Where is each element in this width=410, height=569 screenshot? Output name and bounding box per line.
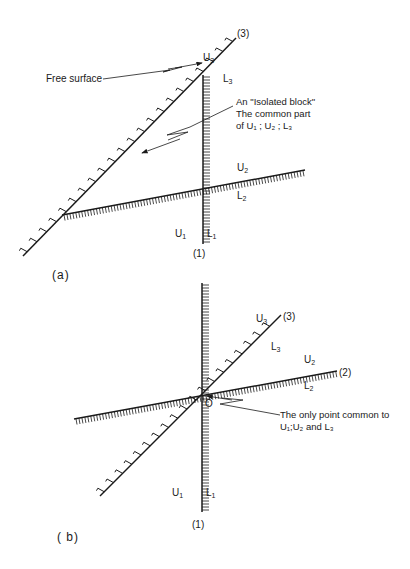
line-3-id-b: (3) xyxy=(283,311,295,322)
line-3-a xyxy=(23,38,236,256)
line-3-a-ticks xyxy=(19,38,232,252)
l2-label-a: L2 xyxy=(237,190,246,202)
u1-label-b: U1 xyxy=(172,487,183,499)
isolated-block-note: An "Isolated block" The common part of U… xyxy=(236,96,315,132)
u2-label-b: U2 xyxy=(304,354,315,366)
l3-label-b: L3 xyxy=(271,341,280,353)
figure-a xyxy=(19,38,305,256)
free-surface-label: Free surface xyxy=(46,73,102,84)
u2-label-a: U2 xyxy=(237,162,248,174)
line-2-id-b: (2) xyxy=(339,367,351,378)
diagram-canvas xyxy=(0,0,410,569)
u1-label-a: U1 xyxy=(175,228,186,240)
point-common-note: The only point common to U₁;U₂ and L₃ xyxy=(280,409,389,433)
u3-label-a: U3 xyxy=(203,52,214,64)
l3-label-a: L3 xyxy=(223,73,232,85)
line-1-id-b: (1) xyxy=(192,519,204,530)
line-3-id-a: (3) xyxy=(237,28,249,39)
free-surface-leader xyxy=(103,63,202,79)
point-o-leader xyxy=(207,396,280,415)
caption-b: ( b) xyxy=(57,532,79,543)
l1-label-b: L1 xyxy=(206,487,215,499)
l2-label-b: L2 xyxy=(304,380,313,392)
isolated-block-leader xyxy=(142,106,233,153)
line-3-b xyxy=(100,315,281,496)
caption-a: (a) xyxy=(52,270,70,281)
line-3-b-ticks xyxy=(96,323,269,492)
line-2-a xyxy=(62,170,305,215)
u3-label-b: U3 xyxy=(256,313,267,325)
line-1-id-a: (1) xyxy=(193,248,205,259)
origin-label: O xyxy=(205,398,213,409)
line-1-a-hatch xyxy=(203,77,210,242)
l1-label-a: L1 xyxy=(207,228,216,240)
